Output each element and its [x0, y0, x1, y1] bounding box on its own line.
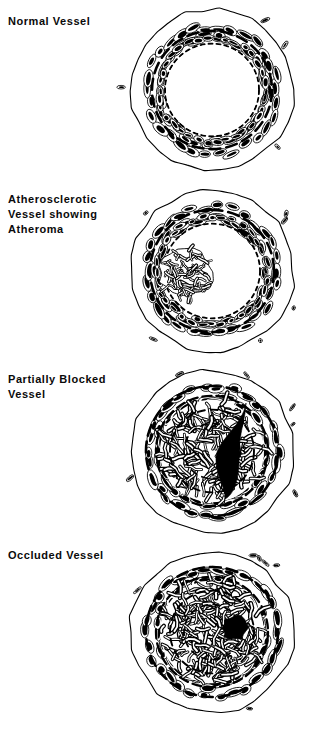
label-line-1: Partially Blocked	[8, 373, 106, 385]
panel-label-partially-blocked-vessel: Partially BlockedVessel	[8, 372, 106, 402]
panel-label-atherosclerotic-vessel: AtheroscleroticVessel showingAtheroma	[8, 192, 98, 237]
vessel-art-atherosclerotic	[131, 190, 296, 353]
label-line-3: Atheroma	[8, 223, 64, 235]
label-line-2: Vessel	[8, 388, 46, 400]
vessel-art-normal	[117, 8, 295, 171]
vessel-art-partially-blocked	[125, 370, 298, 534]
vessel-illustrations	[0, 0, 309, 729]
vessel-art-occluded	[129, 552, 294, 712]
label-line-2: Vessel showing	[8, 208, 98, 220]
panel-label-normal-vessel: Normal Vessel	[8, 14, 90, 29]
panel-label-occluded-vessel: Occluded Vessel	[8, 548, 104, 563]
vessel-cross-section-figure: Normal Vessel AtheroscleroticVessel show…	[0, 0, 309, 729]
label-line-1: Atherosclerotic	[8, 193, 97, 205]
